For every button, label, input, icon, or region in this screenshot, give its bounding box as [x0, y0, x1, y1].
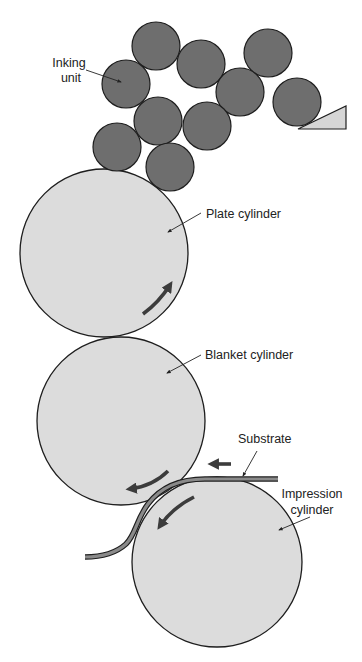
inking-roller [183, 102, 231, 150]
inking-roller [146, 143, 194, 191]
cylinders [20, 169, 302, 647]
inking-unit-label-line1: Inking [52, 56, 85, 70]
impression-cylinder-label-line1: Impression [281, 487, 342, 501]
blanket-cylinder-label: Blanket cylinder [205, 348, 293, 362]
inking-unit-label-line2: unit [61, 71, 82, 85]
inking-roller [93, 123, 141, 171]
offset-press-diagram: Inking unit Plate cylinder Blanket cylin… [0, 0, 362, 662]
ink-fountain-roller [273, 78, 321, 126]
plate-cylinder-label: Plate cylinder [206, 207, 281, 221]
substrate-label: Substrate [238, 432, 292, 446]
inking-roller [132, 22, 180, 70]
inking-unit-rollers [93, 22, 321, 191]
inking-roller [134, 97, 182, 145]
substrate-leader [243, 451, 257, 476]
inking-roller [244, 29, 292, 77]
impression-cylinder-label-line2: cylinder [290, 503, 333, 517]
inking-roller [102, 60, 150, 108]
plate-cylinder [20, 169, 188, 337]
inking-roller [177, 40, 225, 88]
impression-cylinder [132, 477, 302, 647]
